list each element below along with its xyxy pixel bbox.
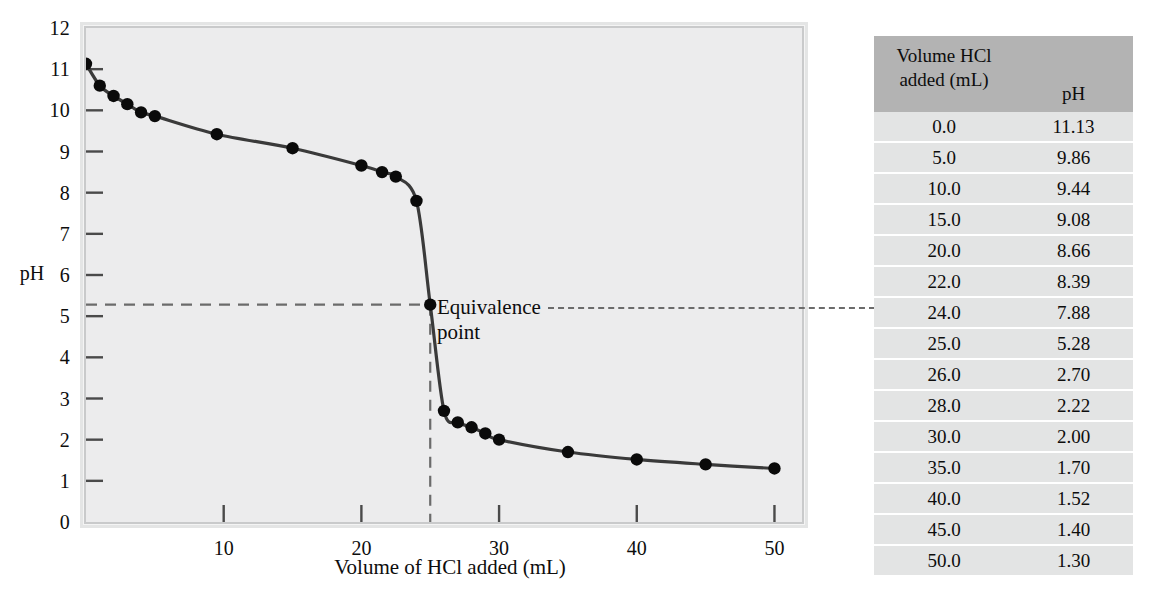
data-point-markers <box>86 58 781 475</box>
cell-volume: 0.0 <box>874 112 1014 142</box>
cell-volume: 5.0 <box>874 142 1014 173</box>
cell-ph: 8.66 <box>1014 235 1133 266</box>
cell-volume: 24.0 <box>874 297 1014 328</box>
cell-volume: 45.0 <box>874 514 1014 545</box>
cell-ph: 1.70 <box>1014 452 1133 483</box>
table-row: 15.09.08 <box>874 204 1133 235</box>
table-row: 20.08.66 <box>874 235 1133 266</box>
y-tick-label: 4 <box>30 347 70 367</box>
table-row: 5.09.86 <box>874 142 1133 173</box>
y-tick-label: 11 <box>30 59 70 79</box>
y-tick-label: 3 <box>30 389 70 409</box>
x-axis-ticks <box>224 505 775 522</box>
equivalence-guide-lines <box>86 305 430 522</box>
column-header-volume-line2: added (mL) <box>899 69 988 90</box>
y-axis-title: pH <box>10 262 54 285</box>
cell-ph: 2.22 <box>1014 390 1133 421</box>
x-axis-title: Volume of HCl added (mL) <box>250 555 650 580</box>
cell-volume: 30.0 <box>874 421 1014 452</box>
cell-volume: 15.0 <box>874 204 1014 235</box>
column-header-volume-line1: Volume HCl <box>896 45 991 66</box>
cell-volume: 50.0 <box>874 545 1014 575</box>
table-row: 0.011.13 <box>874 112 1133 142</box>
x-tick-label: 50 <box>744 538 804 558</box>
table-header-row: Volume HCladded (mL) pH <box>874 36 1133 112</box>
titration-data-table: Volume HCladded (mL) pH 0.011.135.09.861… <box>874 36 1133 575</box>
table-row: 50.01.30 <box>874 545 1133 575</box>
table-row: 26.02.70 <box>874 359 1133 390</box>
table-row: 30.02.00 <box>874 421 1133 452</box>
table-header: Volume HCladded (mL) pH <box>874 36 1133 112</box>
cell-volume: 35.0 <box>874 452 1014 483</box>
y-tick-label: 12 <box>30 18 70 38</box>
cell-volume: 40.0 <box>874 483 1014 514</box>
table-row: 24.07.88 <box>874 297 1133 328</box>
plot-area <box>86 28 802 522</box>
cell-ph: 1.52 <box>1014 483 1133 514</box>
cell-volume: 10.0 <box>874 173 1014 204</box>
cell-volume: 26.0 <box>874 359 1014 390</box>
table-row: 35.01.70 <box>874 452 1133 483</box>
cell-volume: 25.0 <box>874 328 1014 359</box>
table-row: 40.01.52 <box>874 483 1133 514</box>
cell-ph: 11.13 <box>1014 112 1133 142</box>
cell-volume: 20.0 <box>874 235 1014 266</box>
table-row: 28.02.22 <box>874 390 1133 421</box>
cell-ph: 9.86 <box>1014 142 1133 173</box>
equivalence-leader-line <box>548 307 875 309</box>
cell-ph: 1.40 <box>1014 514 1133 545</box>
cell-ph: 1.30 <box>1014 545 1133 575</box>
table-row: 45.01.40 <box>874 514 1133 545</box>
y-tick-label: 7 <box>30 224 70 244</box>
y-tick-label: 0 <box>30 512 70 532</box>
equivalence-label-line1: Equivalence <box>437 295 541 319</box>
column-header-volume: Volume HCladded (mL) <box>874 36 1014 112</box>
y-axis-ticks <box>86 69 103 481</box>
y-tick-label: 2 <box>30 430 70 450</box>
equivalence-point-label: Equivalencepoint <box>437 295 541 345</box>
y-tick-label: 1 <box>30 471 70 491</box>
x-tick-label: 10 <box>194 538 254 558</box>
y-tick-label: 10 <box>30 100 70 120</box>
table-row: 22.08.39 <box>874 266 1133 297</box>
cell-ph: 2.00 <box>1014 421 1133 452</box>
y-tick-label: 8 <box>30 183 70 203</box>
titration-curve-figure: 0123456789101112 1020304050 pH Volume of… <box>0 0 860 589</box>
cell-volume: 22.0 <box>874 266 1014 297</box>
cell-ph: 5.28 <box>1014 328 1133 359</box>
y-tick-label: 5 <box>30 306 70 326</box>
cell-ph: 2.70 <box>1014 359 1133 390</box>
cell-ph: 8.39 <box>1014 266 1133 297</box>
cell-volume: 28.0 <box>874 390 1014 421</box>
cell-ph: 9.08 <box>1014 204 1133 235</box>
cell-ph: 7.88 <box>1014 297 1133 328</box>
plot-svg <box>86 28 802 522</box>
table-row: 25.05.28 <box>874 328 1133 359</box>
equivalence-label-line2: point <box>437 320 480 344</box>
table-row: 10.09.44 <box>874 173 1133 204</box>
column-header-ph: pH <box>1014 36 1133 112</box>
y-tick-label: 9 <box>30 142 70 162</box>
table-body: 0.011.135.09.8610.09.4415.09.0820.08.662… <box>874 112 1133 575</box>
cell-ph: 9.44 <box>1014 173 1133 204</box>
